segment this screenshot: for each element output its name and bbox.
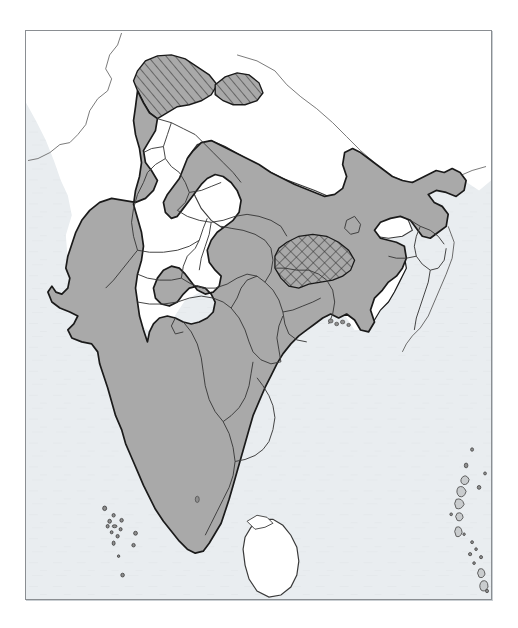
map-frame [25,30,492,600]
map-page: India India (mainland) Jammu and Kashmir… [0,0,518,628]
india-map-svg [26,31,491,599]
